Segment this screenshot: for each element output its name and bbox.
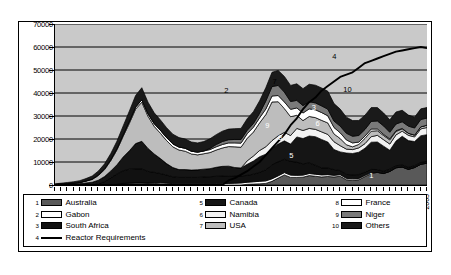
series-callout-1: 1 [369, 171, 373, 180]
legend-item-south-africa[interactable]: 3South Africa [30, 220, 146, 232]
legend-item-label: Niger [366, 210, 385, 219]
chart-screenshot: 010000200003000040000500006000070000 274… [0, 0, 451, 275]
x-axis-tick [383, 187, 384, 191]
y-axis-tick [49, 185, 54, 186]
plot-area-wrapper: 010000200003000040000500006000070000 274… [19, 22, 433, 190]
x-axis-tick [73, 187, 74, 191]
x-axis-tick [308, 187, 309, 191]
series-callout-3: 3 [312, 103, 316, 112]
x-axis-tick [395, 187, 396, 191]
x-axis-tick [401, 187, 402, 191]
legend-item-niger[interactable]: 9Niger [330, 209, 390, 221]
x-axis-tick [259, 187, 260, 191]
series-callout-8: 8 [278, 133, 282, 142]
x-axis-tick [147, 187, 148, 191]
legend-item-reactor-requirements[interactable]: 4Reactor Requirements [30, 232, 146, 244]
x-axis-tick [215, 187, 216, 191]
legend-item-label: Gabon [66, 210, 90, 219]
x-axis-tick [221, 187, 222, 191]
x-axis-tick [203, 187, 204, 191]
legend-item-label: France [366, 198, 391, 207]
chart-legend: 1Australia2Gabon3South Africa4Reactor Re… [23, 194, 427, 247]
x-axis-tick [302, 187, 303, 191]
x-axis-tick [283, 187, 284, 191]
y-axis-tick [49, 70, 54, 71]
x-axis-tick [228, 187, 229, 191]
legend-item-label: South Africa [66, 221, 109, 230]
x-axis-tick [426, 187, 427, 191]
x-axis-tick [296, 187, 297, 191]
legend-swatch-icon [341, 199, 362, 206]
legend-item-number: 6 [194, 211, 205, 218]
legend-item-label: Australia [66, 198, 97, 207]
x-axis-tick [172, 187, 173, 191]
x-axis-tick [141, 187, 142, 191]
legend-item-number: 5 [194, 199, 205, 206]
area-chart-svg [55, 24, 427, 185]
x-axis-tick [376, 187, 377, 191]
x-axis-tick [135, 187, 136, 191]
x-axis-tick [234, 187, 235, 191]
y-axis-tick [49, 139, 54, 140]
x-axis-tick [116, 187, 117, 191]
x-axis-tick [190, 187, 191, 191]
y-axis-tick [49, 93, 54, 94]
legend-swatch-icon [341, 211, 362, 218]
x-axis-tick [128, 187, 129, 191]
legend-item-others[interactable]: 10Others [330, 220, 390, 232]
legend-item-gabon[interactable]: 2Gabon [30, 209, 146, 221]
x-axis-tick [246, 187, 247, 191]
x-axis-tick [184, 187, 185, 191]
series-callout-6: 6 [315, 119, 319, 128]
series-callout-9: 9 [265, 121, 269, 130]
x-axis-tick [358, 187, 359, 191]
legend-swatch-icon [41, 199, 62, 206]
legend-item-france[interactable]: 8France [330, 197, 390, 209]
legend-item-australia[interactable]: 1Australia [30, 197, 146, 209]
x-axis-tick [265, 187, 266, 191]
y-axis-tick [49, 116, 54, 117]
legend-item-number: 1 [30, 199, 41, 206]
legend-item-label: USA [230, 221, 246, 230]
legend-item-number: 4 [30, 234, 41, 241]
legend-swatch-icon [205, 222, 226, 229]
x-axis-tick [389, 187, 390, 191]
legend-item-number: 7 [194, 222, 205, 229]
x-axis-tick [104, 187, 105, 191]
x-axis-tick [327, 187, 328, 191]
x-axis-tick [407, 187, 408, 191]
x-axis-tick [159, 187, 160, 191]
series-callout-2: 2 [224, 86, 228, 95]
legend-swatch-icon [205, 199, 226, 206]
x-axis-tick [209, 187, 210, 191]
legend-item-canada[interactable]: 5Canada [194, 197, 259, 209]
x-axis-tick [66, 187, 67, 191]
legend-item-label: Reactor Requirements [66, 233, 146, 242]
x-axis-tick [321, 187, 322, 191]
x-axis-tick [339, 187, 340, 191]
legend-item-label: Others [366, 221, 390, 230]
legend-swatch-icon [41, 211, 62, 218]
x-axis-tick [85, 187, 86, 191]
x-axis-tick [271, 187, 272, 191]
legend-swatch-icon [41, 222, 62, 229]
x-axis-tick [314, 187, 315, 191]
x-axis-tick [79, 187, 80, 191]
chart-frame: 010000200003000040000500006000070000 274… [18, 21, 432, 252]
legend-item-usa[interactable]: 7USA [194, 220, 259, 232]
x-axis-tick [252, 187, 253, 191]
y-axis-tick [49, 47, 54, 48]
legend-swatch-icon [341, 222, 362, 229]
legend-item-namibia[interactable]: 6Namibia [194, 209, 259, 221]
x-axis-tick [153, 187, 154, 191]
x-axis-tick [97, 187, 98, 191]
x-axis-tick [54, 187, 55, 191]
legend-item-number: 2 [30, 211, 41, 218]
legend-column: 5Canada6Namibia7USA [194, 197, 259, 232]
x-axis-tick [345, 187, 346, 191]
x-axis-tick [166, 187, 167, 191]
x-axis-tick [178, 187, 179, 191]
x-axis-tick [122, 187, 123, 191]
y-axis-tick [49, 24, 54, 25]
x-axis-tick [240, 187, 241, 191]
